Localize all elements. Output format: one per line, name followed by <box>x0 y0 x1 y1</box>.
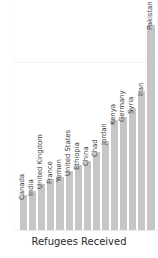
bar[interactable] <box>47 179 54 230</box>
x-axis-line <box>13 230 158 231</box>
bar-label: Germany <box>119 91 126 122</box>
bar-label: Jordan <box>101 124 108 146</box>
plot-area <box>13 0 158 231</box>
bar-label: Ethiopia <box>74 142 81 170</box>
bar[interactable] <box>38 184 45 230</box>
y-axis-line <box>13 0 14 231</box>
bar-label: Chad <box>92 139 99 157</box>
bar-label: Syria <box>128 97 135 114</box>
bar-label: United States <box>65 130 72 176</box>
bar-label: Iran <box>138 83 145 96</box>
bar-chart: CanadaIndiaUnited KingdomFranceYemenUnit… <box>0 0 158 258</box>
bar-label: United Kingdom <box>37 134 44 189</box>
bar[interactable] <box>20 195 27 230</box>
bar[interactable] <box>129 109 136 230</box>
bar-label: Kenya <box>110 104 117 125</box>
bar[interactable] <box>56 177 63 230</box>
bar-label: Canada <box>19 174 26 200</box>
bar[interactable] <box>84 161 91 230</box>
bar[interactable] <box>138 91 145 230</box>
bar-label: Pakistan <box>147 1 154 30</box>
bar-label: Yemen <box>56 159 63 182</box>
bar-label: India <box>28 179 35 196</box>
bar[interactable] <box>102 141 109 231</box>
bar-label: France <box>47 162 54 185</box>
gridline <box>13 62 158 63</box>
x-axis-title: Refugees Received <box>0 236 158 247</box>
bar[interactable] <box>93 152 100 230</box>
bar-label: China <box>83 146 90 166</box>
bar[interactable] <box>66 171 73 230</box>
bar[interactable] <box>111 120 118 230</box>
bar[interactable] <box>147 25 154 230</box>
bar[interactable] <box>75 165 82 230</box>
bar[interactable] <box>120 117 127 230</box>
bar[interactable] <box>29 191 36 230</box>
